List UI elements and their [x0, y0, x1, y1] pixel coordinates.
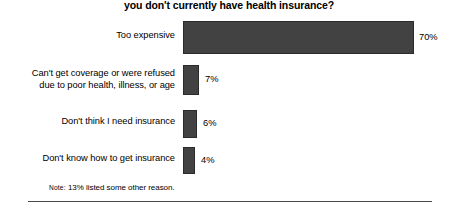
bar: [183, 147, 195, 174]
chart-title: you don't currently have health insuranc…: [0, 0, 458, 11]
bar-value-label: 7%: [205, 74, 218, 85]
bar-row: Don't know how to get insurance 4%: [0, 144, 458, 182]
category-label: Too expensive: [0, 30, 175, 42]
category-label-line: Too expensive: [116, 30, 175, 40]
bar: [183, 65, 199, 95]
plot-area: Too expensive 70% Can't get coverage or …: [0, 18, 458, 176]
category-label-line: due to poor health, illness, or age: [39, 80, 175, 90]
category-label: Don't think I need insurance: [0, 116, 175, 128]
bar: [183, 110, 197, 138]
bar-row: Don't think I need insurance 6%: [0, 107, 458, 145]
bottom-divider: [28, 201, 432, 202]
bar-row: Too expensive 70%: [0, 18, 458, 60]
footnote-text: 13% listed some other reason.: [68, 183, 175, 192]
footnote-label: Note:: [49, 184, 66, 191]
bar-row: Can't get coverage or were refused due t…: [0, 62, 458, 104]
category-label-line: Don't know how to get insurance: [42, 153, 175, 163]
bar-value-label: 6%: [203, 118, 216, 129]
chart-footnote: Note: 13% listed some other reason.: [49, 183, 175, 193]
category-label-line: Can't get coverage or were refused: [32, 68, 175, 78]
bar-value-label: 4%: [201, 155, 214, 166]
bar-chart-figure: you don't currently have health insuranc…: [0, 0, 458, 208]
bar: [183, 21, 414, 54]
bar-value-label: 70%: [419, 32, 438, 43]
category-label: Don't know how to get insurance: [0, 153, 175, 165]
category-label-line: Don't think I need insurance: [61, 116, 175, 126]
category-label: Can't get coverage or were refused due t…: [0, 68, 175, 91]
